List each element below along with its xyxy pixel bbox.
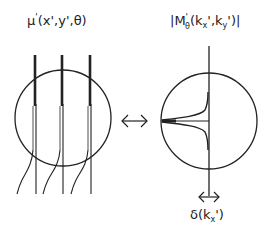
m-args-mid: ',k	[207, 13, 223, 28]
left-curve-2	[43, 150, 60, 194]
upper-cusp-curve	[162, 92, 208, 120]
mu-symbol: μ	[27, 13, 35, 28]
m-close: ')|	[227, 13, 240, 28]
delta-kx-label: δ(kx')	[190, 207, 224, 224]
lower-cusp-curve	[162, 122, 208, 150]
delta-base: δ(k	[190, 207, 211, 222]
delta-close: ')	[215, 207, 224, 222]
left-curve-1	[17, 150, 33, 194]
left-panel	[15, 55, 111, 194]
equivalence-arrow	[122, 115, 147, 127]
right-label: |M'θ(kx',ky')|	[170, 12, 240, 31]
diagram-canvas: μ'(x',y',θ) |M'θ(kx',ky')|	[0, 0, 272, 236]
left-curve-3	[71, 150, 88, 194]
m-open: |M	[170, 13, 186, 28]
right-panel	[161, 46, 257, 196]
mu-args: (x',y',θ)	[38, 13, 87, 28]
m-prime: '	[186, 12, 188, 22]
m-args-open: (k	[190, 13, 203, 28]
left-label: μ'(x',y',θ)	[27, 12, 87, 28]
